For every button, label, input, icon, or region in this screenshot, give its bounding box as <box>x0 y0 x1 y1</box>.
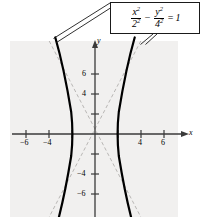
x-tick-label--4: −4 <box>43 138 52 147</box>
x-term-fraction: x2 22 <box>131 7 141 29</box>
x-tick-label-4: 4 <box>138 138 142 147</box>
y-axis-label: y <box>97 36 101 45</box>
minus-operator: − <box>145 13 151 23</box>
x-den-exponent: 2 <box>137 17 140 24</box>
right-hand-side: 1 <box>175 13 180 23</box>
equals-sign: = <box>168 13 174 23</box>
x-term-denominator: 22 <box>131 18 141 30</box>
callout-leader-left-lower <box>57 7 113 43</box>
x-num-exponent: 2 <box>137 4 140 11</box>
y-tick-label--6: −6 <box>77 189 86 198</box>
equation-text: x2 22 − y2 42 = 1 <box>130 7 181 29</box>
y-num-exponent: 2 <box>160 4 163 11</box>
x-axis-arrowhead <box>181 131 189 137</box>
plot-background <box>10 41 178 217</box>
equation-callout-box: x2 22 − y2 42 = 1 <box>110 2 200 34</box>
y-tick-label-6: 6 <box>82 69 86 78</box>
y-den-exponent: 2 <box>160 17 163 24</box>
y-tick-label-4: 4 <box>82 89 86 98</box>
x-tick-label-6: 6 <box>161 138 165 147</box>
y-term-fraction: y2 42 <box>154 7 164 29</box>
hyperbola-figure: x2 22 − y2 42 = 1 x y −6 −4 4 6 6 4 −4 −… <box>0 0 204 217</box>
x-axis-label: x <box>189 128 193 137</box>
y-tick-label--4: −4 <box>77 169 86 178</box>
x-tick-label--6: −6 <box>20 138 29 147</box>
callout-leader-left-upper <box>54 3 111 39</box>
y-term-denominator: 42 <box>154 18 164 30</box>
